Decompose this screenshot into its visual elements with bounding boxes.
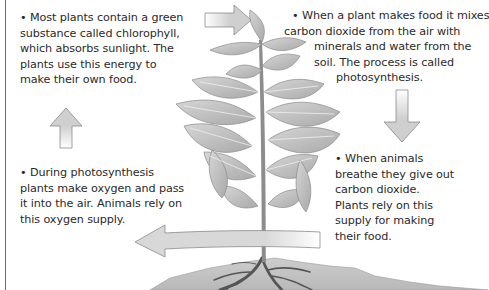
arrow-right-icon — [205, 5, 251, 35]
text-line: which absorbs sunlight. The — [20, 41, 183, 57]
text-line: it into the air. Animals rely on — [20, 196, 184, 212]
text-line: minerals and water from the — [314, 39, 489, 55]
stem-icon — [259, 40, 266, 262]
text-line: their food. — [335, 229, 454, 245]
text-line: substance called chlorophyll, — [20, 26, 183, 42]
text-line: make their own food. — [20, 72, 183, 88]
text-block-oxygen: • During photosynthesis plants make oxyg… — [20, 165, 184, 227]
text-line: breathe they give out — [335, 167, 454, 183]
text-line: soil. The process is called — [314, 55, 489, 71]
text-block-chlorophyll: • Most plants contain a green substance … — [20, 10, 183, 88]
arrow-up-icon — [50, 108, 82, 148]
text-block-carbon-dioxide: • When animals breathe they give out car… — [335, 151, 454, 245]
text-line: • During photosynthesis — [20, 165, 184, 181]
text-line: this oxygen supply. — [20, 212, 184, 228]
arrow-left-icon — [135, 225, 320, 257]
text-line: carbon dioxide. — [335, 182, 454, 198]
arrow-down-icon — [384, 90, 420, 142]
text-line: carbon dioxide from the air with — [284, 24, 489, 40]
text-block-photosynthesis: • When a plant makes food it mixes carbo… — [292, 8, 489, 86]
text-line: • When a plant makes food it mixes — [292, 8, 489, 24]
text-line: Plants rely on this — [335, 198, 454, 214]
soil-icon — [150, 258, 488, 290]
text-line: • Most plants contain a green — [20, 10, 183, 26]
text-line: photosynthesis. — [336, 70, 489, 86]
text-line: • When animals — [335, 151, 454, 167]
text-line: plants make oxygen and pass — [20, 181, 184, 197]
text-line: plants use this energy to — [20, 57, 183, 73]
text-line: supply for making — [335, 213, 454, 229]
